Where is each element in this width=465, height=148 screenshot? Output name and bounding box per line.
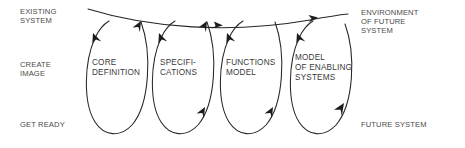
label-existing-system: EXISTING SYSTEM [20,7,56,25]
label-create-image: CREATE IMAGE [20,60,51,78]
label-future-system: FUTURE SYSTEM [361,120,427,129]
label-specifications: SPECIFI- CATIONS [160,58,197,78]
label-model-of-enabling-systems: MODEL OF ENABLING SYSTEMS [295,53,352,84]
label-core-definition: CORE DEFINITION [92,58,140,78]
label-environment-of-future-system: ENVIRONMENT OF FUTURE SYSTEM [361,8,418,36]
loop-functions-model-arrowhead-bottom-right [265,107,273,118]
loop-specifications-arrowhead-bottom-right [197,107,205,118]
loop-core-definition-arrowhead-top-right [133,21,141,32]
label-functions-model: FUNCTIONS MODEL [226,58,275,78]
spiral-diagram: EXISTING SYSTEM CREATE IMAGE GET READY E… [0,0,465,148]
loop-specifications-arrowhead-top-right [199,21,207,32]
label-get-ready: GET READY [20,120,65,129]
